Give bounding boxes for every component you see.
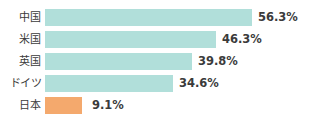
value-label-uk: 39.8% [198, 53, 238, 70]
horizontal-bar-chart: 中国 56.3% 米国 46.3% 英国 39.8% ドイツ 34.6% 日本 … [0, 0, 317, 126]
bar-row: 英国 39.8% [0, 53, 317, 70]
value-label-usa: 46.3% [222, 31, 262, 48]
value-label-germany: 34.6% [179, 75, 219, 92]
bar-china [45, 9, 252, 26]
value-label-china: 56.3% [258, 9, 298, 26]
bar-row: 米国 46.3% [0, 31, 317, 48]
bar-row: 中国 56.3% [0, 9, 317, 26]
value-label-japan: 9.1% [92, 97, 124, 114]
bar-track [45, 53, 192, 70]
bar-track [45, 31, 216, 48]
bar-track [45, 9, 252, 26]
bar-track [45, 97, 82, 114]
category-label-japan: 日本 [0, 97, 41, 114]
bar-usa [45, 31, 216, 48]
category-label-germany: ドイツ [0, 75, 41, 92]
category-label-uk: 英国 [0, 53, 41, 70]
bar-row: 日本 9.1% [0, 97, 317, 114]
category-label-usa: 米国 [0, 31, 41, 48]
category-label-china: 中国 [0, 9, 41, 26]
bar-track [45, 75, 173, 92]
bar-row: ドイツ 34.6% [0, 75, 317, 92]
bar-uk [45, 53, 192, 70]
bar-japan [45, 97, 82, 114]
bar-germany [45, 75, 173, 92]
